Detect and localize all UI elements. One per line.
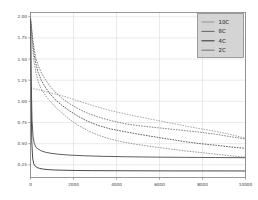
x-tick-label: 4000 [111, 182, 122, 187]
y-tick-label: 0.75 [18, 120, 28, 125]
legend-label-10c: 10C [219, 19, 230, 25]
x-tick-label: 8000 [197, 182, 208, 187]
y-tick-label: 1.25 [18, 78, 28, 83]
chart-legend: 10C8C4C2C [198, 14, 244, 58]
legend-label-8c: 8C [219, 28, 226, 34]
y-tick-label: 1.50 [18, 57, 28, 62]
chart-figure: 0200040006000800010000 0.250.500.751.001… [0, 0, 258, 200]
y-tick-label: 0.50 [18, 141, 28, 146]
line-chart: 0200040006000800010000 0.250.500.751.001… [0, 0, 258, 200]
x-tick-label: 10000 [239, 182, 253, 187]
y-tick-label: 1.75 [18, 35, 28, 40]
legend-label-4c: 4C [219, 38, 226, 44]
x-tick-label: 0 [29, 182, 32, 187]
x-tick-label: 6000 [154, 182, 165, 187]
y-tick-label: 1.00 [18, 99, 28, 104]
legend-label-2c: 2C [219, 47, 226, 53]
x-tick-label: 2000 [68, 182, 79, 187]
y-tick-label: 2.00 [18, 14, 28, 19]
y-tick-label: 0.25 [18, 162, 28, 167]
